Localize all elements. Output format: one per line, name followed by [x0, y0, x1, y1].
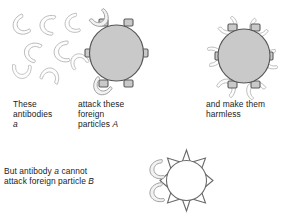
- antibody: [63, 13, 81, 35]
- caption-and-make-them-harmless: and make them harmless: [206, 99, 265, 119]
- antibody: [39, 66, 61, 85]
- antibody: [21, 40, 42, 64]
- caption-italic-B: B: [88, 176, 94, 186]
- caption-line: antibodies: [13, 109, 52, 119]
- antibody-specificity-figure: These antibodies a attack these foreign …: [0, 0, 300, 223]
- caption-but-antibody-cannot-attack-b: But antibody a cannot attack foreign par…: [4, 166, 94, 186]
- caption-italic-a: a: [13, 119, 18, 129]
- caption-attack-these-foreign-particles: attack these foreign particles A: [78, 99, 124, 130]
- caption-line: These: [13, 99, 37, 109]
- particle-a2-body: [218, 29, 270, 83]
- antibody: [39, 14, 56, 36]
- caption-line: and make them: [206, 99, 265, 109]
- panel-free-antibodies: [9, 13, 89, 84]
- caption-line: foreign: [78, 109, 104, 119]
- panel-neutralized-particle-a: [207, 16, 278, 101]
- caption-line: But antibody: [4, 166, 54, 176]
- panel-foreign-particle-a: [85, 8, 148, 99]
- antibody-rejected: [149, 182, 165, 203]
- antibody: [9, 14, 31, 38]
- antibody: [53, 41, 70, 63]
- caption-line: cannot: [59, 166, 87, 176]
- panel-foreign-particle-b: [149, 150, 213, 211]
- caption-these-antibodies: These antibodies a: [13, 99, 52, 130]
- caption-italic-A: A: [113, 119, 119, 129]
- caption-line: attack foreign particle: [4, 176, 88, 186]
- caption-line: harmless: [206, 109, 241, 119]
- antibody: [12, 64, 31, 78]
- caption-line: attack these: [78, 99, 124, 109]
- particle-b-core: [167, 161, 207, 201]
- antibody-rejected: [149, 159, 165, 180]
- particle-a-body: [90, 25, 144, 81]
- caption-line: particles: [78, 119, 113, 129]
